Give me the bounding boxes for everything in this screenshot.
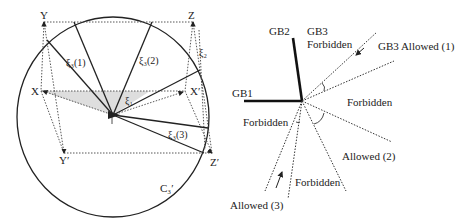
left-diagram: Y Z X X′ Y′ Z′ ξ₃(1) ξ₃(2) ξ₃(3) ξ₂ ξ₁ C… xyxy=(17,9,219,217)
gb3-label: GB3 xyxy=(307,25,328,37)
vertex-z-label: Z xyxy=(188,9,195,21)
circle-c3-label: C₃′ xyxy=(160,182,174,194)
gb2-label: GB2 xyxy=(269,25,290,37)
gb2-line xyxy=(293,38,302,101)
forbidden-right-label: Forbidden xyxy=(347,96,393,108)
xi2-label: ξ₂ xyxy=(199,47,207,59)
gb3-allowed-1-label: GB3 Allowed (1) xyxy=(378,40,455,53)
vertex-y-prime-label: Y′ xyxy=(59,154,69,166)
xi1-label: ξ₁ xyxy=(125,95,133,107)
forbidden-left-label: Forbidden xyxy=(243,116,289,128)
gb1-label: GB1 xyxy=(232,87,253,99)
allowed-1-arrow xyxy=(356,48,364,55)
vertex-z-prime-label: Z′ xyxy=(210,156,219,168)
xi3-2-label: ξ₃(2) xyxy=(139,55,159,67)
vertex-y-label: Y xyxy=(40,9,48,21)
right-diagram: GB2 GB3 Forbidden GB3 Allowed (1) GB1 Fo… xyxy=(230,25,455,212)
allowed-3-label: Allowed (3) xyxy=(230,199,284,212)
xi3-3-label: ξ₃(3) xyxy=(168,129,188,141)
gb3-forbidden-label: Forbidden xyxy=(307,38,353,50)
diagram-canvas: Y Z X X′ Y′ Z′ ξ₃(1) ξ₃(2) ξ₃(3) ξ₂ ξ₁ C… xyxy=(0,0,464,224)
xi3-1-label: ξ₃(1) xyxy=(66,57,86,69)
forbidden-bottom-label: Forbidden xyxy=(295,176,341,188)
vertex-x-label: X xyxy=(31,85,39,97)
allowed-2-label: Allowed (2) xyxy=(342,150,396,163)
vertex-x-prime-label: X′ xyxy=(190,85,200,97)
allowed-3-arrow xyxy=(276,172,282,188)
